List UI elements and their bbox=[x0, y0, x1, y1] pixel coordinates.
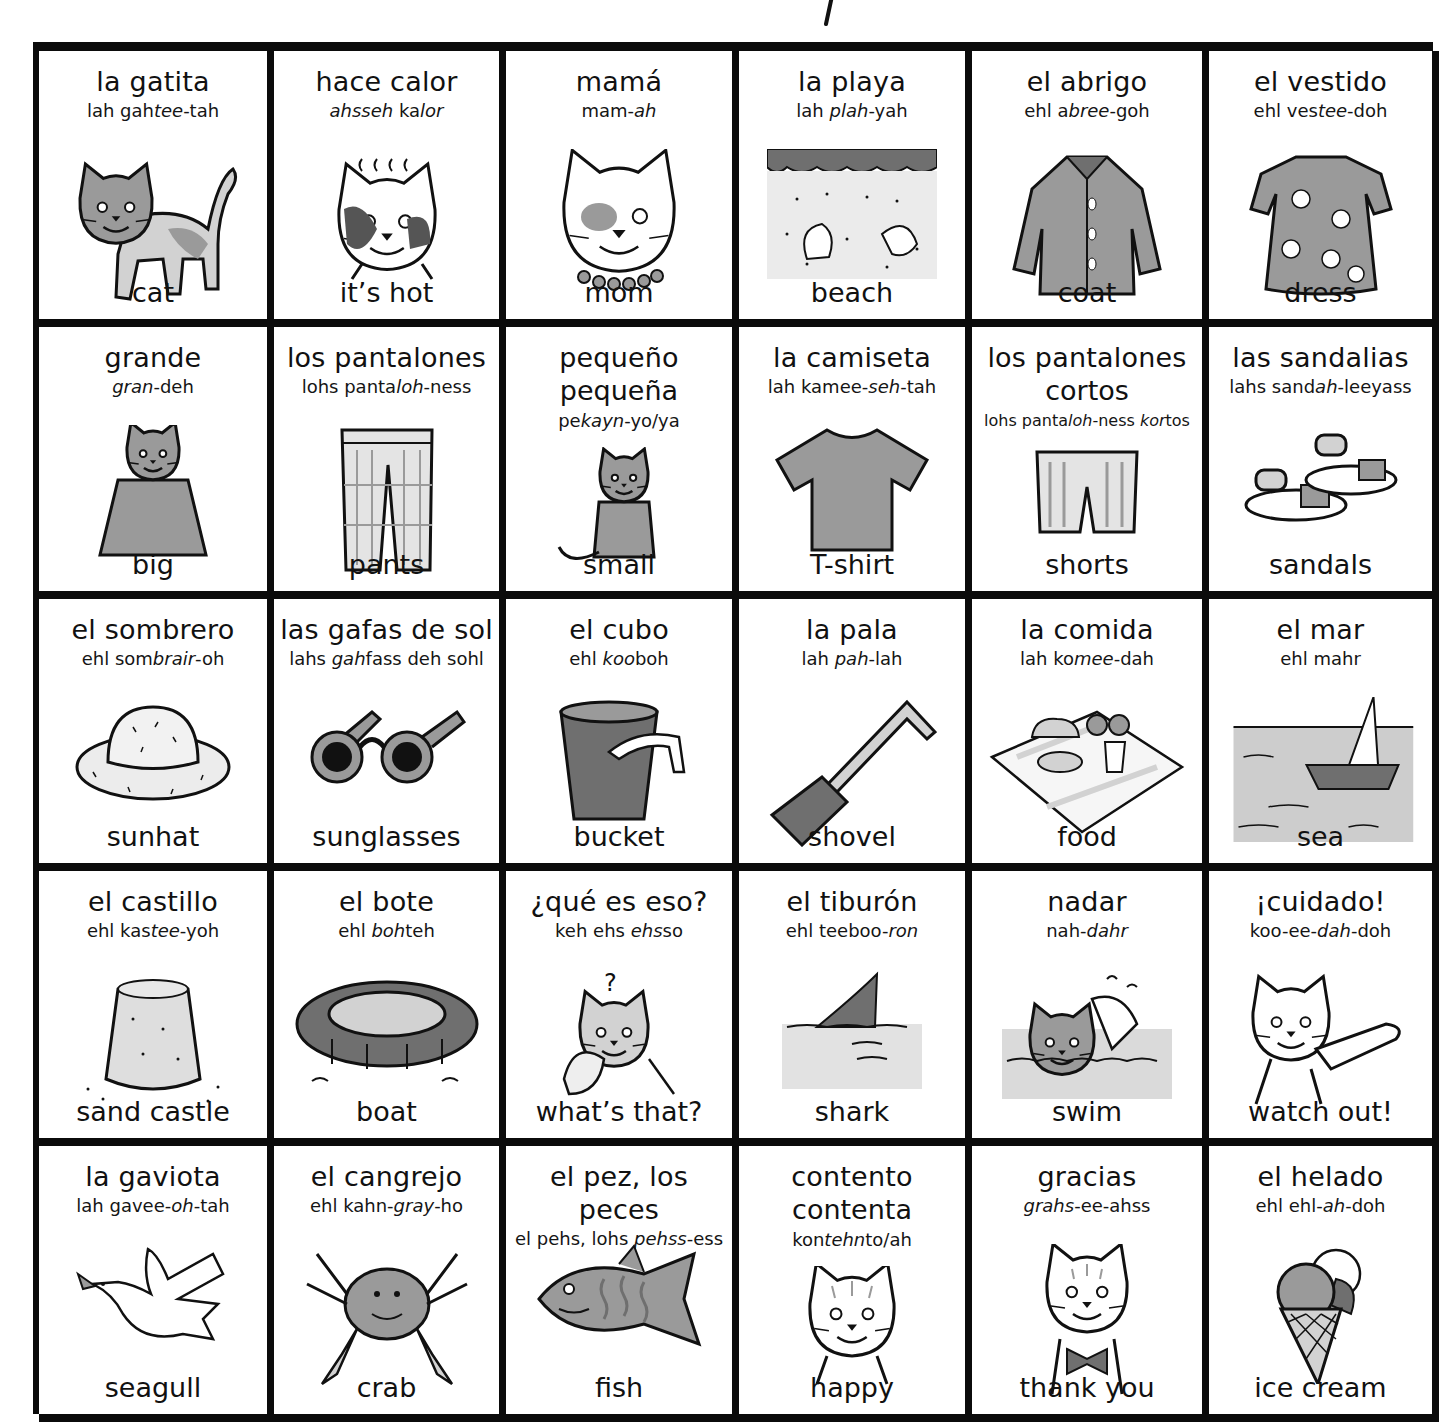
english-word: it’s hot bbox=[274, 277, 499, 309]
pronunciation: ehl mahr bbox=[1209, 647, 1432, 671]
spanish-word: el abrigo bbox=[972, 65, 1202, 98]
pronunciation-segment: ah bbox=[1323, 1195, 1345, 1216]
pronunciation-segment: -doh bbox=[1351, 920, 1391, 941]
ice-cream-icon bbox=[1266, 1244, 1376, 1384]
pronunciation: lohs pantaloh-ness bbox=[274, 375, 499, 399]
pronunciation-segment: ehl teeboo- bbox=[786, 920, 889, 941]
pronunciation-segment: -deh bbox=[153, 376, 193, 397]
vocab-card-mom: mamá mam-ah mom bbox=[506, 51, 739, 327]
sandcastle-icon bbox=[68, 969, 238, 1109]
tshirt-icon bbox=[772, 425, 932, 555]
spanish-word: la gaviota bbox=[39, 1160, 267, 1193]
vocabulary-grid: la gatita lah gahtee-tah cat hace calor … bbox=[33, 42, 1433, 1414]
spanish-word: el cangrejo bbox=[274, 1160, 499, 1193]
hot-cat-icon bbox=[322, 149, 452, 289]
english-word: sunhat bbox=[39, 821, 267, 853]
pronunciation-segment: -goh bbox=[1109, 100, 1149, 121]
pronunciation-segment: -ness bbox=[1092, 411, 1140, 430]
english-word: swim bbox=[972, 1096, 1202, 1128]
pronunciation-segment: ehl kahn- bbox=[310, 1195, 394, 1216]
pronunciation: kontehnto/ah bbox=[739, 1228, 965, 1252]
english-word: coat bbox=[972, 277, 1202, 309]
english-word: fish bbox=[506, 1372, 732, 1404]
pronunciation-segment: seh bbox=[868, 376, 900, 397]
spanish-word: nadar bbox=[972, 885, 1202, 918]
spanish-word: ¿qué es eso? bbox=[506, 885, 732, 918]
pronunciation-segment: lahs bbox=[289, 648, 332, 669]
pronunciation-segment: bree bbox=[1068, 100, 1109, 121]
english-word: big bbox=[39, 549, 267, 581]
beach-icon bbox=[767, 149, 937, 279]
english-word: boat bbox=[274, 1096, 499, 1128]
english-word: ice cream bbox=[1209, 1372, 1432, 1404]
pronunciation: lahs sandah-leeyass bbox=[1209, 375, 1432, 399]
spanish-word: el tiburón bbox=[739, 885, 965, 918]
pronunciation-segment: -doh bbox=[1347, 100, 1387, 121]
vocab-card-beach: la playa lah plah-yah beach bbox=[739, 51, 972, 327]
pronunciation: lah kamee-seh-tah bbox=[739, 375, 965, 399]
vocab-card-swim: nadar nah-dahr swim bbox=[972, 871, 1209, 1146]
pronunciation-segment: -ho bbox=[434, 1195, 463, 1216]
english-word: shark bbox=[739, 1096, 965, 1128]
pronunciation-segment: gavee- bbox=[109, 1195, 171, 1216]
pronunciation: lahs gahfass deh sohl bbox=[274, 647, 499, 671]
pronunciation: grahs-ee-ahss bbox=[972, 1194, 1202, 1218]
spanish-word: el pez, los peces bbox=[506, 1160, 732, 1226]
spanish-word: pequeño bbox=[506, 341, 732, 374]
dinghy-icon bbox=[292, 969, 482, 1089]
pronunciation-segment: so bbox=[663, 920, 683, 941]
happy-cat-icon bbox=[797, 1266, 907, 1386]
spanish-word: gracias bbox=[972, 1160, 1202, 1193]
english-word: sand castle bbox=[39, 1096, 267, 1128]
english-word: T-shirt bbox=[739, 549, 965, 581]
pronunciation: keh ehs ehsso bbox=[506, 919, 732, 943]
english-word: thank you bbox=[972, 1372, 1202, 1404]
pronunciation: ehl teeboo-ron bbox=[739, 919, 965, 943]
pronunciation-segment: ah bbox=[1315, 376, 1337, 397]
pronunciation: mam-ah bbox=[506, 99, 732, 123]
spanish-word: mamá bbox=[506, 65, 732, 98]
vocab-card-sandals: las sandalias lahs sandah-leeyass sandal… bbox=[1209, 327, 1439, 599]
title-fragment-mark bbox=[818, 0, 838, 28]
spanish-word: la gatita bbox=[39, 65, 267, 98]
vocab-card-cat: la gatita lah gahtee-tah cat bbox=[39, 51, 274, 327]
pronunciation-segment: lahs sand bbox=[1229, 376, 1315, 397]
pronunciation-segment: ehl ehl- bbox=[1256, 1195, 1323, 1216]
seagull-icon bbox=[73, 1244, 233, 1364]
pronunciation-segment: loh bbox=[1068, 411, 1092, 430]
english-word: food bbox=[972, 821, 1202, 853]
pronunciation-segment: -yah bbox=[868, 100, 907, 121]
vocab-card-shovel: la pala lah pah-lah shovel bbox=[739, 599, 972, 871]
pronunciation-segment: kor bbox=[1140, 411, 1166, 430]
pronunciation-segment: ehl bbox=[338, 920, 371, 941]
spanish-word: el vestido bbox=[1209, 65, 1432, 98]
pronunciation: lah plah-yah bbox=[739, 99, 965, 123]
pronunciation-segment: ah bbox=[634, 100, 656, 121]
pronunciation-segment: mam- bbox=[581, 100, 634, 121]
pronunciation-segment: tee bbox=[1318, 100, 1347, 121]
pronunciation-segment: kon bbox=[792, 1229, 824, 1250]
pronunciation-segment: teh bbox=[405, 920, 435, 941]
english-word: sunglasses bbox=[274, 821, 499, 853]
pronunciation: ahsseh kalor bbox=[274, 99, 499, 123]
spanish-word: los pantalones bbox=[274, 341, 499, 374]
vocab-card-pants: los pantalones lohs pantaloh-ness pants bbox=[274, 327, 506, 599]
vocab-card-food: la comida lah komee-dah food bbox=[972, 599, 1209, 871]
pronunciation-segment: tee bbox=[154, 100, 183, 121]
pronunciation-segment: lohs panta bbox=[984, 411, 1068, 430]
spanish-word-alt: pequeña bbox=[506, 374, 732, 408]
pronunciation-segment: gran bbox=[112, 376, 153, 397]
spanish-word: la playa bbox=[739, 65, 965, 98]
pronunciation: ehl kooboh bbox=[506, 647, 732, 671]
vocab-card-shark: el tiburón ehl teeboo-ron shark bbox=[739, 871, 972, 1146]
pronunciation-segment: lah gah bbox=[87, 100, 154, 121]
pronunciation-segment: ehl som bbox=[82, 648, 153, 669]
pronunciation-segment: koo-ee- bbox=[1250, 920, 1317, 941]
english-word: bucket bbox=[506, 821, 732, 853]
pronunciation: lah pah-lah bbox=[739, 647, 965, 671]
pronunciation-segment: boh bbox=[635, 648, 669, 669]
pronunciation-segment: ehl kas bbox=[87, 920, 151, 941]
sandals-icon bbox=[1241, 425, 1401, 535]
vocab-card-sand-castle: el castillo ehl kastee-yoh sand castle bbox=[39, 871, 274, 1146]
vocab-card-fish: el pez, los peces el pehs, lohs pehss-es… bbox=[506, 1146, 739, 1422]
